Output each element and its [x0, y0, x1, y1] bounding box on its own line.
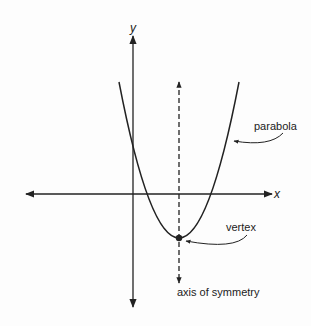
axis-of-symmetry-label: axis of symmetry — [177, 286, 260, 298]
vertex-point — [176, 235, 182, 241]
x-axis-label: x — [273, 187, 281, 201]
parabola-label: parabola — [254, 120, 298, 132]
diagram-canvas: y x parabola vertex axis of symmetry — [0, 0, 311, 326]
parabola-diagram: y x parabola vertex axis of symmetry — [0, 0, 311, 326]
y-axis-label: y — [129, 21, 137, 35]
parabola-leader — [234, 133, 283, 143]
vertex-leader — [186, 235, 247, 244]
vertex-label: vertex — [226, 221, 256, 233]
